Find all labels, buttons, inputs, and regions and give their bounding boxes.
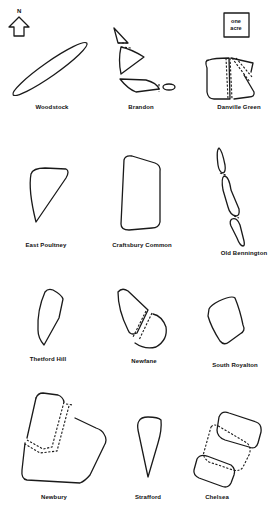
label-south-royalton: South Royalton — [212, 362, 258, 368]
label-thetford-hill: Thetford Hill — [30, 356, 67, 362]
shape-danville-green — [206, 58, 254, 99]
north-label: N — [17, 8, 21, 14]
label-danville-green: Danville Green — [217, 104, 260, 110]
north-arrow-icon — [9, 17, 29, 36]
shape-strafford — [138, 417, 162, 477]
shape-chelsea — [194, 412, 261, 487]
shape-thetford-hill — [38, 289, 63, 345]
scale-box-label-line2: acre — [224, 25, 248, 32]
label-chelsea: Chelsea — [205, 494, 229, 500]
label-old-bennington: Old Bennington — [221, 250, 267, 256]
shape-newbury — [22, 393, 106, 483]
shape-east-poultney — [30, 168, 68, 222]
label-strafford: Strafford — [135, 494, 161, 500]
label-brandon: Brandon — [128, 104, 153, 110]
shape-woodstock — [9, 37, 91, 100]
shape-south-royalton — [208, 297, 244, 344]
label-craftsbury-common: Craftsbury Common — [112, 242, 172, 248]
shape-brandon — [114, 28, 175, 92]
label-woodstock: Woodstock — [35, 104, 68, 110]
commons-diagram — [0, 0, 275, 513]
shape-craftsbury-common — [121, 156, 160, 230]
shape-old-bennington — [217, 148, 244, 246]
shape-newfane — [118, 289, 166, 348]
label-newfane: Newfane — [131, 358, 156, 364]
scale-box-label-line1: one — [224, 18, 248, 25]
label-east-poultney: East Poultney — [26, 242, 67, 248]
label-newbury: Newbury — [41, 494, 67, 500]
